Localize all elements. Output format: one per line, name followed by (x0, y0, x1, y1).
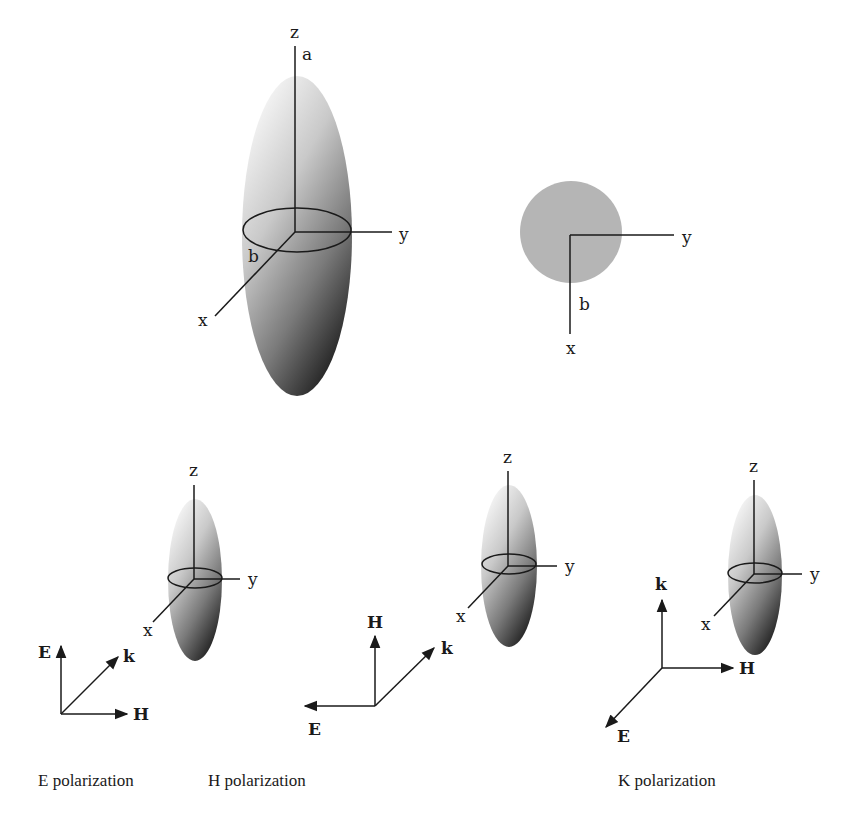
vector-label-k: k (655, 574, 668, 594)
axis-label-z: z (189, 460, 198, 480)
circular-cross-section (520, 181, 622, 283)
axis-label-y: y (681, 227, 692, 247)
vector-label-k: k (123, 646, 136, 666)
vector-label-h: H (367, 612, 383, 632)
caption-k-polarization: K polarization (618, 771, 716, 790)
axis-label-z: z (290, 22, 299, 42)
semi-axis-label-a: a (302, 44, 312, 64)
vector-label-e: E (308, 719, 321, 739)
axis-label-y: y (564, 556, 575, 576)
cross-section-figure: y b x (520, 181, 692, 358)
axis-label-x: x (566, 338, 576, 358)
panel-h-polarization: z y x H k E H polarization (208, 447, 575, 790)
vector-label-e: E (38, 642, 51, 662)
panel-k-polarization: z y x k E H K polarization (606, 456, 820, 790)
k-vector-arrow (375, 648, 434, 706)
axis-label-x: x (701, 614, 711, 634)
vector-label-h: H (739, 658, 755, 678)
large-ellipsoid-figure: z a y b x (198, 22, 409, 396)
vector-label-e: E (617, 726, 630, 746)
vector-label-h: H (133, 704, 149, 724)
axis-label-y: y (398, 224, 409, 244)
axis-label-z: z (749, 456, 758, 476)
panel-e-polarization: z y x E k H E polarization (38, 460, 258, 790)
axis-label-x: x (198, 310, 208, 330)
caption-e-polarization: E polarization (38, 771, 134, 790)
axis-label-x: x (143, 620, 153, 640)
vector-label-k: k (441, 638, 454, 658)
axis-label-x: x (456, 606, 466, 626)
e-field-arrow (606, 668, 662, 727)
semi-axis-label-b: b (248, 246, 259, 266)
k-vector-arrow (61, 657, 118, 714)
prolate-spheroid (168, 499, 222, 661)
axis-label-z: z (503, 447, 512, 467)
ellipsoid-diagram: z a y b x y b x z y x E k H E polarizati… (0, 0, 864, 834)
axis-label-y: y (809, 564, 820, 584)
radius-label-b: b (579, 294, 590, 314)
caption-h-polarization: H polarization (208, 771, 306, 790)
axis-label-y: y (247, 569, 258, 589)
prolate-spheroid (242, 76, 352, 396)
prolate-spheroid (728, 495, 782, 655)
